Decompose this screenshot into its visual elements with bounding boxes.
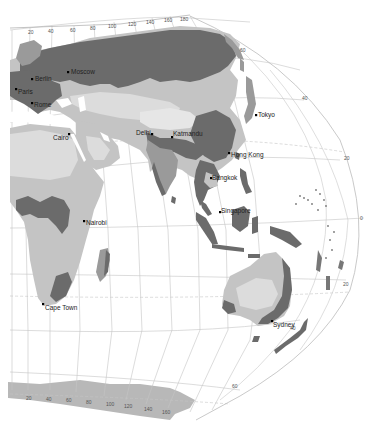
pacific-islands	[295, 189, 344, 290]
city-label: Rome	[34, 101, 52, 108]
city-marker	[31, 102, 33, 104]
city-berlin[interactable]: Berlin	[31, 75, 52, 82]
city-label: Katmandu	[173, 130, 203, 137]
lat-label: 0	[360, 215, 363, 221]
city-label: Berlin	[35, 75, 52, 82]
lon-label-bottom: 40	[46, 396, 52, 402]
city-label: Moscow	[71, 68, 95, 75]
lon-label-bottom: 80	[86, 399, 92, 405]
city-delhi[interactable]: Delhi	[136, 129, 153, 136]
lon-label-bottom: 160	[162, 409, 171, 415]
city-marker	[83, 220, 85, 222]
malay-peninsula	[200, 200, 212, 216]
lat-label: 20	[343, 281, 349, 287]
lon-label-top: 140	[146, 19, 155, 25]
city-marker	[67, 71, 69, 73]
lat-label: 40	[302, 95, 308, 101]
lon-label-top: 120	[128, 21, 137, 27]
city-label: Paris	[18, 88, 34, 95]
mediterranean	[10, 110, 60, 124]
city-label: Cape Town	[45, 304, 78, 312]
city-tokyo[interactable]: Tokyo	[255, 111, 275, 119]
lon-label-bottom: 120	[124, 403, 133, 409]
city-marker	[15, 88, 17, 90]
city-label: Sydney	[273, 321, 295, 329]
city-cairo[interactable]: Cairo	[53, 133, 70, 141]
city-label: Nairobi	[86, 219, 107, 226]
lat-label: 60	[232, 383, 238, 389]
lon-label-top: 160	[164, 17, 173, 23]
lon-label-bottom: 60	[66, 397, 72, 403]
top-border	[10, 15, 190, 28]
city-label: Delhi	[136, 129, 151, 136]
city-marker	[31, 78, 33, 80]
city-label: Hong Kong	[231, 151, 264, 159]
japan	[244, 76, 256, 124]
city-label: Cairo	[53, 134, 69, 141]
lon-label-top: 20	[28, 29, 34, 35]
lon-label-top: 100	[108, 23, 117, 29]
sakhalin	[240, 58, 244, 72]
lon-label-top: 80	[90, 25, 96, 31]
city-katmandu[interactable]: Katmandu	[171, 130, 203, 138]
city-bangkok[interactable]: Bangkok	[210, 174, 238, 182]
city-moscow[interactable]: Moscow	[67, 68, 95, 75]
city-label: Singapore	[221, 207, 251, 215]
lon-label-top: 180	[180, 16, 189, 22]
city-sydney[interactable]: Sydney	[271, 320, 295, 329]
city-nairobi[interactable]: Nairobi	[83, 219, 107, 226]
city-marker	[228, 152, 230, 154]
city-rome[interactable]: Rome	[31, 101, 52, 108]
lon-label-bottom: 100	[106, 401, 115, 407]
lon-label-bottom: 140	[144, 406, 153, 412]
world-map: 20 40 60 80 100 120 140 160 180 20 40 60…	[0, 0, 373, 426]
sri-lanka	[171, 196, 176, 204]
city-singapore[interactable]: Singapore	[219, 207, 251, 215]
city-marker	[255, 114, 257, 116]
tasmania	[252, 336, 260, 342]
city-paris[interactable]: Paris	[15, 88, 34, 95]
city-label: Bangkok	[212, 174, 238, 182]
city-label: Tokyo	[258, 111, 275, 119]
city-marker	[151, 133, 153, 135]
lat-label: 20	[344, 155, 350, 161]
lon-label-top: 40	[48, 28, 54, 34]
lat-label: 60	[240, 47, 246, 53]
city-hong-kong[interactable]: Hong Kong	[228, 151, 264, 159]
lon-label-top: 60	[70, 27, 76, 33]
lon-label-bottom: 20	[26, 395, 32, 401]
philippines	[240, 168, 252, 194]
city-cape-town[interactable]: Cape Town	[42, 303, 78, 312]
city-marker	[42, 303, 44, 305]
